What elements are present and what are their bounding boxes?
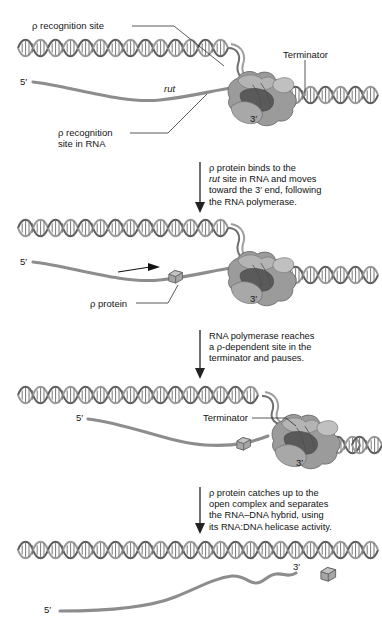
dna-double-helix-icon-downstream (288, 87, 378, 104)
label-five-prime-panel4: 5′ (44, 604, 51, 615)
panel-2-artwork (18, 220, 378, 306)
rna-polymerase-blob-icon (272, 415, 340, 469)
rho-protein-cube-icon (237, 438, 251, 451)
rho-protein-cube-icon (321, 568, 336, 582)
rho-protein-cube-icon (169, 271, 183, 284)
label-three-prime-panel3: 3′ (296, 457, 303, 468)
label-rho-recognition-site-in-rna: ρ recognition site in RNA (58, 127, 113, 149)
label-five-prime-panel1: 5′ (20, 76, 27, 87)
rna-transcript (33, 82, 232, 101)
panel-4-artwork (18, 542, 378, 611)
arrow-down-icon-2 (195, 330, 205, 379)
rna-polymerase-blob-icon (228, 252, 296, 306)
dna-double-helix-icon-downstream (288, 267, 378, 284)
label-three-prime-panel1: 3′ (250, 113, 257, 124)
rna-polymerase-blob-icon (228, 72, 296, 126)
leader-line-icon (136, 285, 178, 303)
panel-3-artwork (18, 387, 382, 469)
label-three-prime-panel4: 3′ (293, 561, 300, 572)
panel-1-artwork (18, 26, 378, 133)
dna-double-helix-icon (18, 220, 228, 237)
arrow-right-icon (118, 263, 160, 272)
label-five-prime-panel2: 5′ (20, 256, 27, 267)
label-five-prime-panel3: 5′ (76, 412, 83, 423)
label-terminator-panel1: Terminator (283, 49, 328, 60)
label-rho-recognition-site: ρ recognition site (32, 20, 104, 31)
dna-double-helix-icon (18, 387, 258, 404)
caption-step-2: RNA polymerase reaches a ρ-dependent sit… (209, 331, 379, 365)
dna-double-helix-icon (18, 542, 378, 559)
caption-step-1: ρ protein binds to the rut site in RNA a… (209, 163, 379, 208)
rna-transcript-released (60, 573, 296, 611)
arrow-down-icon-3 (195, 487, 205, 534)
dna-double-helix-icon (18, 40, 228, 57)
label-rut-site: rut (164, 83, 175, 94)
rna-transcript (33, 262, 232, 281)
caption-step-3: ρ protein catches up to the open complex… (209, 488, 382, 533)
label-three-prime-panel2: 3′ (250, 293, 257, 304)
caption-italic-rut: rut (209, 174, 220, 184)
figure-rho-dependent-termination: ρ recognition site Terminator 5′ rut ρ r… (0, 0, 382, 625)
arrow-down-icon-1 (195, 162, 205, 213)
label-rho-protein: ρ protein (90, 298, 127, 309)
label-terminator-panel3: Terminator (203, 412, 248, 423)
